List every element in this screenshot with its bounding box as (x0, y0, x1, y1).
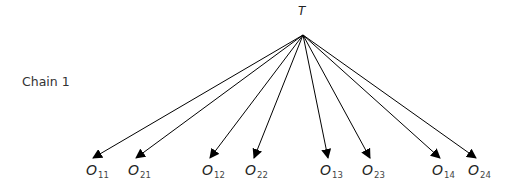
leaf-node-label: O13 (320, 162, 343, 180)
node-main: O (202, 162, 213, 178)
node-subscript: 23 (374, 170, 385, 180)
node-subscript: 12 (214, 170, 225, 180)
node-main: O (362, 162, 373, 178)
edge-arrow (303, 35, 440, 158)
node-main: O (320, 162, 331, 178)
node-subscript: 14 (444, 170, 455, 180)
node-main: O (245, 162, 256, 178)
edge-arrow (93, 35, 303, 158)
node-subscript: 21 (140, 170, 151, 180)
node-main: O (128, 162, 139, 178)
chain-label: Chain 1 (22, 74, 70, 89)
node-subscript: 13 (332, 170, 343, 180)
root-node-label: T (298, 4, 305, 18)
node-main: O (432, 162, 443, 178)
node-subscript: 11 (98, 170, 109, 180)
leaf-node-label: O22 (245, 162, 268, 180)
edge-arrow (303, 35, 476, 158)
leaf-node-label: O21 (128, 162, 151, 180)
leaf-node-label: O14 (432, 162, 455, 180)
node-main: O (468, 162, 479, 178)
node-subscript: 24 (480, 170, 491, 180)
edge-arrow (136, 35, 303, 158)
leaf-node-label: O23 (362, 162, 385, 180)
node-main: O (86, 162, 97, 178)
leaf-node-label: O24 (468, 162, 491, 180)
node-subscript: 22 (257, 170, 268, 180)
edge-arrow (303, 35, 370, 158)
leaf-node-label: O11 (86, 162, 109, 180)
leaf-node-label: O12 (202, 162, 225, 180)
edge-arrow (210, 35, 303, 158)
